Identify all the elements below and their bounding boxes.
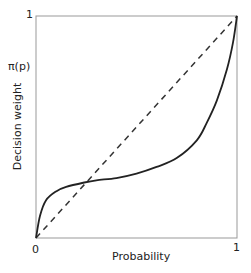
x-tick-1: 1 [233,241,240,254]
x-tick-0: 0 [32,243,39,256]
chart-canvas [0,0,251,273]
y-tick-1: 1 [26,8,33,21]
x-axis-label: Probability [112,250,170,263]
y-axis-label: Decision weight [11,82,24,172]
identity-line [36,16,237,238]
y-annotation-pi-p: π(p) [8,60,30,73]
